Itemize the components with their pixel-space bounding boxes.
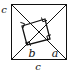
geometry-figure: a b c c (0, 0, 72, 71)
inner-tilted-square (22, 19, 50, 45)
label-c-bottom: c (35, 61, 41, 71)
label-a: a (52, 47, 59, 60)
label-c-left: c (1, 4, 7, 15)
label-b: b (28, 47, 35, 60)
pythagorean-proof-diagram: a b c c (0, 0, 72, 71)
